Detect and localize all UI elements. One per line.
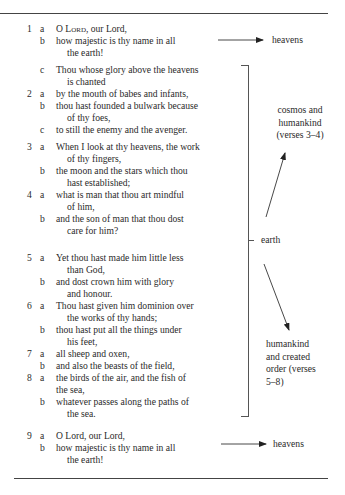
label-heavens-bottom: heavens: [273, 438, 304, 451]
arrow-down-icon: [264, 264, 289, 330]
label-earth: earth: [261, 234, 280, 247]
label-cosmos-line: cosmos and: [270, 104, 330, 117]
label-cosmos-line: humankind: [270, 117, 330, 130]
label-humankind-line: and created: [266, 351, 316, 364]
bottom-rule: [14, 478, 328, 479]
label-humankind-line: order (verses: [266, 363, 316, 376]
arrows: [0, 0, 345, 495]
arrow-up-icon: [266, 153, 285, 217]
label-cosmos-line: (verses 3–4): [270, 129, 330, 142]
label-heavens-top: heavens: [272, 34, 303, 47]
label-humankind-line: humankind: [266, 338, 316, 351]
label-humankind-line: 5–8): [266, 376, 316, 389]
label-cosmos: cosmos and humankind (verses 3–4): [270, 104, 330, 142]
label-humankind: humankind and created order (verses 5–8): [266, 338, 316, 388]
